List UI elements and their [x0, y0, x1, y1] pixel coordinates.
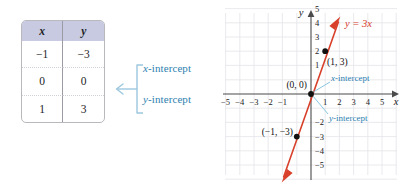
x-tick-label: 1 — [323, 97, 327, 107]
point-label-neg1-neg3: (−1, −3) — [262, 127, 293, 138]
xy-value-table: x y −1 −3 0 0 1 3 — [21, 20, 105, 123]
y-tick-label: 5 — [315, 4, 319, 14]
x-tick-label: −3 — [249, 97, 258, 107]
x-tick-label: 2 — [337, 97, 341, 107]
callout-y-suffix: -intercept — [148, 93, 191, 105]
point-label-1-3: (1, 3) — [327, 57, 348, 68]
callout-label-x-intercept: x-intercept — [143, 62, 191, 74]
y-tick-label: 3 — [315, 32, 319, 42]
x-tick-label: 4 — [366, 97, 371, 107]
x-tick-labels: −5 −4 −3 −2 −1 1 2 3 4 5 — [221, 97, 384, 107]
point-neg1-neg3 — [294, 134, 300, 140]
x-tick-label: −1 — [278, 97, 287, 107]
equation-label: y = 3x — [344, 18, 372, 29]
cell-x: 1 — [22, 95, 63, 122]
cell-x: 0 — [22, 67, 63, 94]
y-tick-label: 2 — [315, 46, 319, 56]
y-tick-label: −4 — [315, 146, 325, 156]
graph-svg: −5 −4 −3 −2 −1 1 2 3 4 5 5 4 3 2 1 −2 −3… — [219, 4, 403, 184]
cell-y: −3 — [63, 41, 104, 67]
point-0-0 — [308, 91, 314, 97]
y-tick-label: −2 — [315, 117, 324, 127]
x-tick-label: −4 — [235, 97, 245, 107]
x-tick-label: 3 — [351, 97, 355, 107]
y-tick-label: −5 — [315, 160, 324, 170]
axis-label-y: y — [298, 7, 304, 18]
x-tick-label: −2 — [264, 97, 273, 107]
column-header-x: x — [22, 21, 63, 41]
table-row: 0 0 — [22, 67, 104, 94]
point-1-3 — [322, 48, 328, 54]
y-tick-labels: 5 4 3 2 1 −2 −3 −4 −5 — [315, 4, 325, 170]
coordinate-plane-graph: −5 −4 −3 −2 −1 1 2 3 4 5 5 4 3 2 1 −2 −3… — [219, 4, 403, 184]
callout-label-y-intercept: y-intercept — [143, 93, 191, 105]
table-body: −1 −3 0 0 1 3 — [22, 41, 104, 122]
annotation-y-suffix: -intercept — [333, 113, 368, 123]
intercept-callout: x-intercept y-intercept — [113, 60, 209, 118]
y-axis-arrow-icon — [308, 10, 315, 17]
table: x y −1 −3 0 0 1 3 — [21, 20, 105, 123]
y-tick-label: 1 — [315, 60, 319, 70]
axis-label-x: x — [393, 96, 399, 107]
x-tick-label: −5 — [221, 97, 230, 107]
table-row: 1 3 — [22, 95, 104, 122]
cell-x: −1 — [22, 41, 63, 67]
point-label-0-0: (0, 0) — [286, 80, 307, 91]
annotation-x-suffix: -intercept — [335, 73, 370, 83]
table-header-row: x y — [22, 21, 104, 41]
annotation-y-intercept: y-intercept — [328, 113, 368, 123]
figure-root: x y −1 −3 0 0 1 3 — [0, 0, 404, 185]
column-header-y: y — [63, 21, 104, 41]
x-tick-label: 5 — [380, 97, 384, 107]
annotation-x-intercept: x-intercept — [330, 73, 370, 83]
cell-y: 3 — [63, 95, 104, 122]
table-head: x y — [22, 21, 104, 41]
y-tick-label: −3 — [315, 132, 324, 142]
callout-x-suffix: -intercept — [148, 62, 191, 74]
table-row: −1 −3 — [22, 41, 104, 67]
cell-y: 0 — [63, 67, 104, 94]
